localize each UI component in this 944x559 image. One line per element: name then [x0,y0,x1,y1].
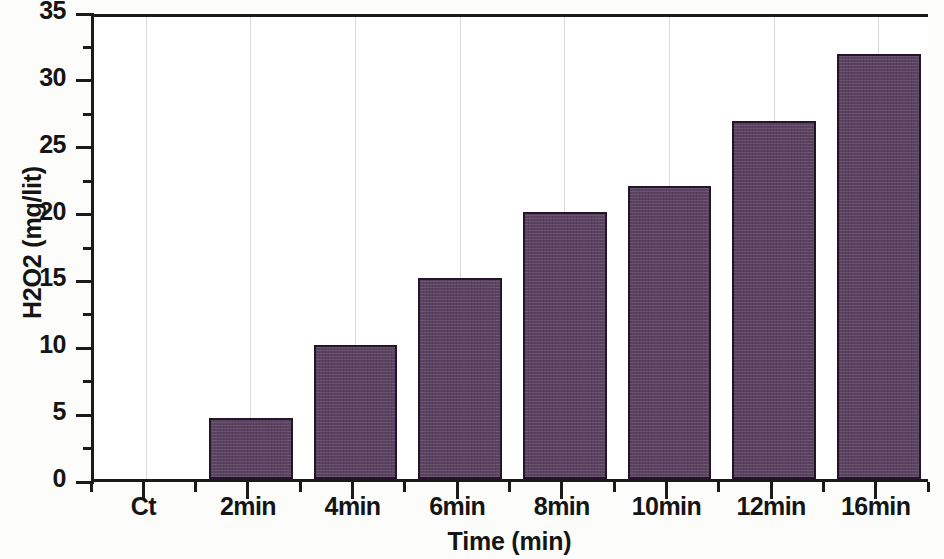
x-minor-tick-4 [508,482,511,492]
x-minor-tick-7 [822,482,825,492]
x-tick-label-16min: 16min [801,492,944,521]
x-minor-tick-1 [194,482,197,492]
y-tick-25 [76,146,94,149]
bar-8min[interactable] [523,212,607,479]
y-tick-label-0: 0 [6,464,66,493]
x-minor-tick-0 [90,482,93,492]
bar-12min[interactable] [732,121,816,479]
gridline-2min [250,17,251,479]
bar-2min[interactable] [209,418,293,480]
x-axis-title: Time (min) [91,527,928,556]
bar-10min[interactable] [628,186,712,479]
y-tick-15 [76,280,94,283]
bar-16min[interactable] [837,54,921,479]
x-minor-tick-5 [613,482,616,492]
y-minor-tick-27.5 [83,113,94,116]
y-tick-label-10: 10 [6,330,66,359]
plot-area [91,14,928,482]
y-tick-label-15: 15 [6,263,66,292]
y-tick-10 [76,347,94,350]
y-tick-35 [76,13,94,16]
x-minor-tick-3 [403,482,406,492]
y-minor-tick-22.5 [83,180,94,183]
x-minor-tick-6 [717,482,720,492]
bar-6min[interactable] [418,278,502,479]
y-minor-tick-17.5 [83,247,94,250]
gridline-ct [146,17,147,479]
bar-chart-figure: H2O2 (mg/lit) 05101520253035Ct2min4min6m… [0,0,944,559]
y-minor-tick-32.5 [83,46,94,49]
y-tick-label-35: 35 [6,0,66,25]
x-minor-tick-2 [299,482,302,492]
y-tick-30 [76,79,94,82]
y-tick-20 [76,213,94,216]
y-tick-label-5: 5 [6,397,66,426]
plot-inner [94,17,928,479]
y-minor-tick-7.5 [83,380,94,383]
bar-4min[interactable] [314,345,398,479]
y-minor-tick-2.5 [83,447,94,450]
y-tick-label-25: 25 [6,130,66,159]
y-tick-label-30: 30 [6,63,66,92]
y-tick-5 [76,414,94,417]
y-tick-label-20: 20 [6,197,66,226]
x-minor-tick-8 [927,482,930,492]
y-minor-tick-12.5 [83,313,94,316]
